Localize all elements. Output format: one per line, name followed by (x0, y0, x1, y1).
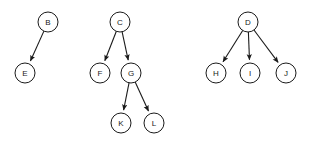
edge-g-to-l (135, 82, 148, 111)
node-label-e: E (22, 69, 27, 78)
node-label-b: B (45, 18, 50, 27)
node-label-i: I (249, 69, 251, 78)
node-d[interactable]: D (238, 12, 258, 32)
edge-c-to-f (105, 31, 117, 60)
edge-b-to-e (30, 31, 43, 61)
node-h[interactable]: H (206, 63, 226, 83)
node-j[interactable]: J (276, 63, 296, 83)
node-i[interactable]: I (240, 63, 260, 83)
node-label-g: G (128, 69, 134, 78)
node-label-h: H (213, 69, 219, 78)
node-f[interactable]: F (90, 63, 110, 83)
node-label-k: K (118, 119, 124, 128)
edge-d-to-h (223, 30, 243, 61)
node-label-c: C (117, 18, 123, 27)
node-l[interactable]: L (144, 113, 164, 133)
node-e[interactable]: E (15, 63, 35, 83)
node-g[interactable]: G (121, 63, 141, 83)
edge-d-to-i (248, 32, 249, 60)
node-label-j: J (284, 69, 288, 78)
node-b[interactable]: B (38, 12, 58, 32)
node-label-f: F (98, 69, 103, 78)
edge-c-to-g (122, 32, 128, 60)
node-k[interactable]: K (111, 113, 131, 133)
directed-graph-diagram: BECFGKLDHIJ (0, 0, 312, 143)
node-c[interactable]: C (110, 12, 130, 32)
edge-g-to-k (124, 83, 129, 110)
node-label-l: L (152, 119, 157, 128)
edge-d-to-j (254, 30, 278, 62)
node-label-d: D (245, 18, 251, 27)
nodes-layer: BECFGKLDHIJ (15, 12, 296, 133)
